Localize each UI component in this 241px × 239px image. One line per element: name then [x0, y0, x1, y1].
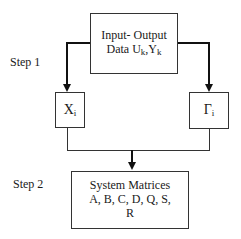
- step-1-label: Step 1: [10, 55, 40, 70]
- x-i-node: Xi: [55, 92, 85, 128]
- arrow-down-icon: [63, 84, 71, 92]
- connector-merge-horizontal: [67, 150, 210, 151]
- io-line2: Data Uk,Yk: [107, 43, 162, 57]
- io-line1: Input- Output: [101, 29, 167, 43]
- connector-io-right-vertical: [208, 42, 210, 85]
- connector-io-left-horizontal: [66, 42, 90, 44]
- arrow-down-icon: [205, 84, 213, 92]
- connector-x-down: [67, 128, 68, 151]
- connector-gamma-down: [209, 129, 210, 151]
- input-output-data-node: Input- Output Data Uk,Yk: [90, 13, 178, 74]
- connector-io-right-horizontal: [178, 42, 210, 44]
- gamma-i-node: Γi: [189, 92, 229, 129]
- step-2-label: Step 2: [13, 177, 43, 192]
- connector-io-left-vertical: [66, 42, 68, 85]
- system-matrices-node: System Matrices A, B, C, D, Q, S, R: [71, 171, 189, 229]
- arrow-down-icon: [128, 162, 136, 170]
